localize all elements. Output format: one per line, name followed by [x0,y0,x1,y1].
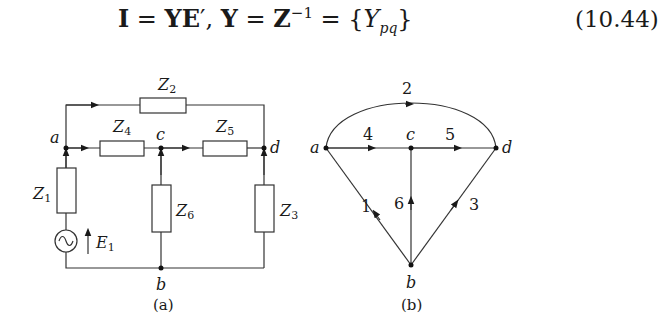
graph-edge-label-5: 5 [445,125,455,144]
graph-edge-label-1: 1 [361,197,371,216]
impedance-z4 [100,141,144,156]
graph-node-c: c [406,125,415,144]
label-z6: Z6 [175,201,194,222]
label-e1: E1 [95,233,115,254]
node-label-b: b [156,275,166,294]
graph-node-d: d [502,138,512,157]
label-z3: Z3 [279,201,298,222]
label-z4: Z4 [112,117,131,138]
graph-edge-label-2: 2 [402,79,412,98]
graph-node-a: a [310,138,320,157]
node-label-c: c [156,125,165,144]
impedance-z6 [152,185,171,232]
node-label-d: d [270,138,280,157]
caption-b: (b) [401,296,422,313]
graph-edge-label-6: 6 [394,194,404,213]
graph-edge-label-4: 4 [363,125,373,144]
caption-a: (a) [153,296,174,313]
impedance-z2 [140,98,186,113]
label-z1: Z1 [32,184,51,205]
graph-node-b: b [406,273,416,292]
circuit-diagram [55,98,274,268]
node-label-a: a [50,128,60,147]
label-z2: Z2 [157,75,176,96]
graph-edge-label-3: 3 [469,195,479,214]
figure: a c d b Z2 Z4 Z5 Z1 Z6 Z3 E1 (a) a c d b… [0,0,665,313]
impedance-z5 [203,141,247,156]
impedance-z1 [57,168,76,213]
impedance-z3 [255,185,274,232]
label-z5: Z5 [215,117,234,138]
